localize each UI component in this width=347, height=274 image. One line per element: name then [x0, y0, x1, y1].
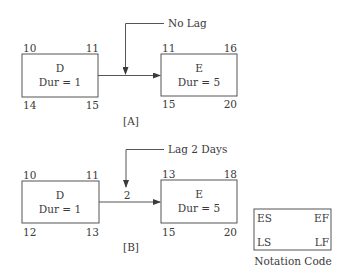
- duration-d-a: Dur = 1: [39, 77, 81, 88]
- ls-value-d-b: 12: [23, 227, 36, 238]
- ef-value-e-b: 18: [224, 169, 237, 180]
- legend-ls: LS: [257, 237, 271, 248]
- es-value-d-a: 10: [23, 43, 36, 54]
- legend-ef: EF: [314, 213, 329, 224]
- activity-name-d-a: D: [56, 63, 64, 74]
- activity-name-e-a: E: [195, 63, 203, 74]
- callout-leader-b: [126, 150, 164, 188]
- duration-d-b: Dur = 1: [39, 204, 81, 215]
- es-value-e-a: 11: [162, 43, 175, 54]
- lf-value-e-b: 20: [224, 227, 237, 238]
- es-value-e-b: 13: [162, 169, 175, 180]
- es-value-d-b: 10: [23, 170, 36, 181]
- ls-value-d-a: 14: [23, 100, 36, 111]
- ls-value-e-a: 15: [162, 99, 175, 110]
- lf-value-e-a: 20: [224, 99, 237, 110]
- callout-leader-a: [126, 24, 165, 75]
- activity-box-d-b: [22, 181, 99, 223]
- callout-label-a: No Lag: [168, 18, 207, 29]
- diagram-label-b: [B]: [123, 242, 139, 253]
- callout-label-b: Lag 2 Days: [168, 144, 227, 155]
- ef-value-e-a: 16: [224, 43, 237, 54]
- lf-value-d-a: 15: [86, 100, 99, 111]
- legend-es: ES: [257, 213, 272, 224]
- activity-box-e-a: [161, 54, 237, 96]
- ef-value-d-b: 11: [86, 170, 99, 181]
- activity-name-e-b: E: [195, 189, 203, 200]
- activity-name-d-b: D: [56, 190, 64, 201]
- ef-value-d-a: 11: [86, 43, 99, 54]
- diagram-label-a: [A]: [123, 116, 139, 127]
- ls-value-e-b: 15: [162, 227, 175, 238]
- duration-e-a: Dur = 5: [178, 77, 220, 88]
- legend-title: Notation Code: [254, 256, 331, 267]
- lag-value-b: 2: [124, 190, 131, 201]
- duration-e-b: Dur = 5: [178, 203, 220, 214]
- lf-value-d-b: 13: [86, 227, 99, 238]
- legend-lf: LF: [315, 237, 329, 248]
